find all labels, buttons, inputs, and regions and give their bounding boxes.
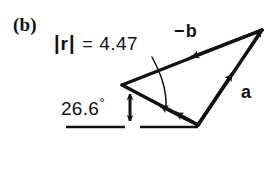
vector-diagram-canvas [0,0,275,169]
vector-b-symbol: b [186,21,197,41]
vector-minus-b-label: −b [174,22,197,40]
vector-r-arrow [122,85,198,125]
magnitude-value: 4.47 [99,34,138,53]
vector-a-label: a [241,83,251,101]
minus-sign: − [174,21,186,41]
vector-diagram-figure: (b) | r | = 4.47 26.6° −b a [0,0,275,169]
equals-sign: = [75,35,99,53]
degree-symbol: ° [99,95,105,111]
vector-r-symbol: r [60,34,69,53]
resultant-magnitude-readout: | r | = 4.47 [54,33,138,53]
angle-readout: 26.6° [61,96,105,118]
angle-value: 26.6 [61,98,99,119]
vector-a-symbol: a [241,82,251,102]
panel-label: (b) [13,15,37,34]
